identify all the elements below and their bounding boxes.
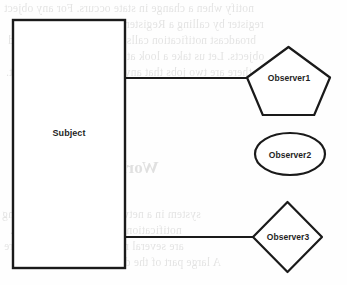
label-observer1: Observer1 [268,73,311,83]
label-observer3: Observer3 [267,232,310,242]
label-subject: Subject [53,128,86,138]
shape-subject-rectangle[interactable] [13,20,125,268]
observer-pattern-diagram [0,0,347,285]
label-observer2: Observer2 [269,150,312,160]
diagram-page: notify when a change in state occurs. Fo… [0,0,347,285]
diagram-canvas [0,0,347,285]
